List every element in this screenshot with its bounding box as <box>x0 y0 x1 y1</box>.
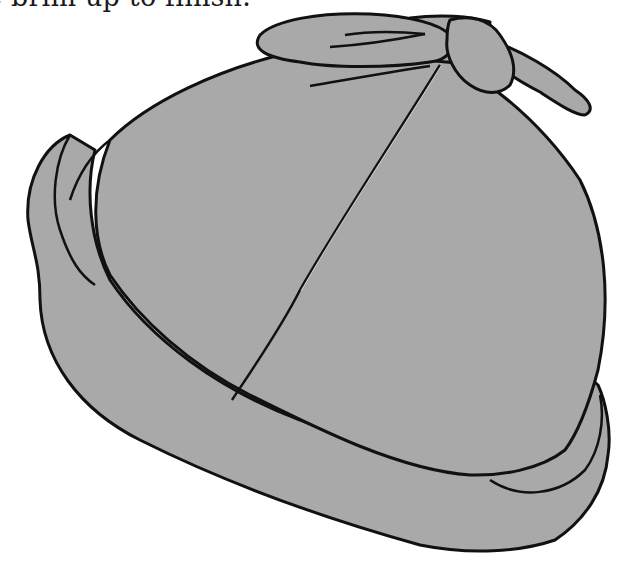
hat-illustration <box>0 0 636 573</box>
